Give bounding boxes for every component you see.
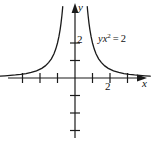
x-axis-tick-label-2: 2 (105, 81, 111, 92)
curve-equation-label: yx2=2 (98, 34, 126, 45)
equation-exponent: 2 (107, 32, 111, 40)
x-axis-label: x (142, 78, 147, 89)
equation-operator: = (113, 33, 119, 44)
curve-left-branch (0, 7, 63, 77)
y-axis-tick-label-2: 2 (77, 34, 83, 45)
plot-canvas (0, 0, 151, 144)
graph-figure: y x 2 2 yx2=2 (0, 0, 151, 144)
y-axis-label: y (78, 2, 83, 13)
equation-right-hand-side: 2 (121, 33, 126, 44)
